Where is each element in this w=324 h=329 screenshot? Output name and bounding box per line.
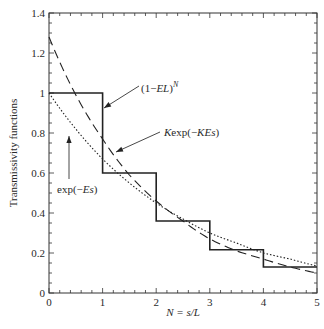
y-tick-label: 1.4: [31, 7, 45, 19]
annotations: (1−EL)NKexp(−KEs)exp(−Es): [57, 80, 219, 196]
axes: 01234500.20.40.60.811.21.4: [31, 7, 320, 308]
y-tick-label: 0.2: [31, 247, 45, 259]
y-tick-label: 1: [40, 87, 46, 99]
series-group: [49, 37, 317, 273]
x-tick-label: 5: [314, 296, 320, 308]
y-axis-label: Transmissivity functions: [7, 99, 19, 208]
y-tick-label: 1.2: [31, 47, 45, 59]
arrow-dotted-head: [66, 136, 71, 143]
y-tick-label: 0: [40, 287, 46, 299]
annotation-dotted-label: exp(−Es): [57, 183, 98, 196]
series-dashed: [49, 37, 317, 273]
x-tick-label: 2: [153, 296, 159, 308]
arrow-step-head: [104, 102, 111, 108]
x-axis-label: N = s/L: [165, 306, 200, 318]
transmissivity-chart: 01234500.20.40.60.811.21.4 (1−EL)NKexp(−…: [0, 0, 324, 329]
x-tick-label: 0: [46, 296, 52, 308]
y-tick-label: 0.4: [31, 207, 45, 219]
x-tick-label: 3: [207, 296, 213, 308]
annotation-dashed-label: Kexp(−KEs): [163, 126, 219, 139]
annotation-step-label: (1−EL)N: [141, 80, 179, 95]
arrow-dashed: [116, 132, 160, 152]
y-tick-label: 0.8: [31, 127, 45, 139]
y-tick-label: 0.6: [31, 167, 45, 179]
plot-frame: [49, 13, 317, 293]
arrow-dashed-head: [116, 147, 123, 152]
x-tick-label: 1: [100, 296, 106, 308]
x-tick-label: 4: [261, 296, 267, 308]
